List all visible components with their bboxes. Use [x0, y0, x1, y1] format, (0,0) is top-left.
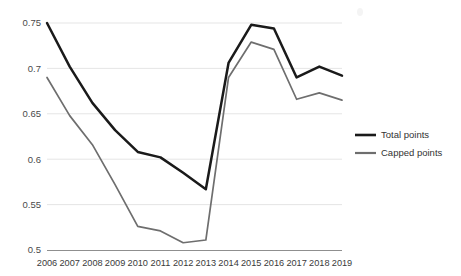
x-axis-tick-label: 2012 [173, 258, 193, 268]
x-axis-tick-label: 2018 [309, 258, 329, 268]
chart-legend: Total pointsCapped points [355, 129, 443, 158]
x-axis-tick-label: 2019 [332, 258, 352, 268]
legend-label: Capped points [381, 147, 443, 158]
y-axis-tick-label: 0.5 [28, 244, 41, 255]
scan-artifact-icon [357, 8, 363, 16]
y-axis-tick-labels: 0.750.70.650.60.550.5 [23, 17, 42, 255]
x-axis-tick-label: 2010 [128, 258, 148, 268]
x-axis-tick-label: 2015 [241, 258, 261, 268]
y-axis-tick-label: 0.55 [23, 199, 42, 210]
x-axis-tick-label: 2014 [218, 258, 238, 268]
y-axis-tick-label: 0.65 [23, 108, 42, 119]
x-axis-tick-label: 2017 [286, 258, 306, 268]
x-axis-tick-label: 2008 [82, 258, 102, 268]
line-chart: 0.750.70.650.60.550.5 200620072008200920… [0, 0, 461, 276]
series-line-capped-points [47, 42, 342, 243]
x-axis-tick-label: 2007 [59, 258, 79, 268]
x-axis-tick-label: 2009 [105, 258, 125, 268]
x-axis-tick-labels: 2006200720082009201020112012201320142015… [37, 258, 352, 268]
series-line-total-points [47, 23, 342, 189]
x-axis-tick-label: 2013 [196, 258, 216, 268]
y-axis-tick-label: 0.6 [28, 154, 41, 165]
chart-canvas: 0.750.70.650.60.550.5 200620072008200920… [0, 0, 461, 276]
y-axis-tick-label: 0.75 [23, 17, 42, 28]
gridlines [47, 23, 342, 205]
y-axis-tick-label: 0.7 [28, 63, 41, 74]
x-axis-tick-label: 2011 [151, 258, 171, 268]
x-axis-tick-label: 2006 [37, 258, 57, 268]
legend-label: Total points [381, 129, 429, 140]
x-axis-tick-label: 2016 [264, 258, 284, 268]
data-series-layer [47, 23, 342, 243]
